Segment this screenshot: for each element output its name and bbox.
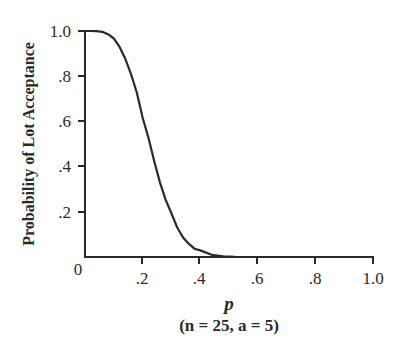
origin-label: 0 bbox=[74, 260, 83, 279]
y-axis-label: Probability of Lot Acceptance bbox=[20, 42, 38, 246]
x-tick-label: .8 bbox=[309, 269, 322, 288]
oc-curve bbox=[85, 31, 373, 257]
y-tick-label: .6 bbox=[58, 112, 71, 131]
x-tick-label: .2 bbox=[136, 269, 149, 288]
x-tick-label: .4 bbox=[193, 269, 206, 288]
x-axis-label: p bbox=[222, 293, 234, 314]
x-axis-subtitle: (n = 25, a = 5) bbox=[179, 316, 279, 335]
x-tick-label: 1.0 bbox=[362, 269, 383, 288]
y-tick-label: .8 bbox=[58, 67, 71, 86]
oc-chart: 1.0 .8 .6 .4 .2 0 .2 .4 .6 .8 1.0 Probab… bbox=[0, 0, 397, 355]
y-tick-label: 1.0 bbox=[50, 22, 71, 41]
x-tick-label: .6 bbox=[251, 269, 264, 288]
y-tick-label: .4 bbox=[58, 157, 71, 176]
y-tick-label: .2 bbox=[58, 203, 71, 222]
y-ticks bbox=[78, 31, 85, 212]
